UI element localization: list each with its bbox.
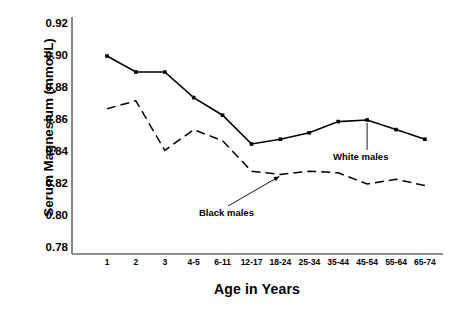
annotation-black-males: Black males bbox=[199, 208, 254, 218]
data-point-marker bbox=[221, 113, 225, 117]
x-tick-label: 12-17 bbox=[241, 258, 263, 267]
x-axis-title: Age in Years bbox=[72, 281, 442, 297]
x-tick-label: 25-34 bbox=[298, 258, 320, 267]
leader-black-males bbox=[228, 176, 279, 206]
x-tick-label: 6-11 bbox=[214, 258, 231, 267]
data-point-marker bbox=[423, 137, 427, 141]
data-point-marker bbox=[336, 120, 340, 124]
x-tick-label: 45-54 bbox=[356, 258, 378, 267]
data-point-marker bbox=[163, 70, 167, 74]
data-point-marker bbox=[134, 70, 138, 74]
data-point-marker bbox=[279, 137, 283, 141]
x-axis-tick-labels: 1234-56-1112-1718-2425-3435-4445-5455-64… bbox=[0, 258, 455, 274]
x-tick-label: 35-44 bbox=[327, 258, 349, 267]
annotation-white-males: White males bbox=[333, 152, 388, 162]
x-tick-label: 1 bbox=[105, 258, 110, 267]
data-point-marker bbox=[105, 54, 109, 58]
x-tick-label: 18-24 bbox=[270, 258, 292, 267]
data-point-marker bbox=[365, 118, 369, 122]
series-line-1 bbox=[107, 56, 425, 144]
series-line-2 bbox=[107, 101, 425, 186]
x-tick-label: 3 bbox=[162, 258, 167, 267]
x-tick-label: 55-64 bbox=[385, 258, 407, 267]
x-tick-label: 2 bbox=[134, 258, 139, 267]
series-layer bbox=[105, 54, 427, 185]
data-point-marker bbox=[308, 131, 312, 135]
x-tick-label: 4-5 bbox=[188, 258, 200, 267]
x-tick-label: 65-74 bbox=[414, 258, 436, 267]
data-point-marker bbox=[394, 128, 398, 132]
data-point-marker bbox=[250, 142, 254, 146]
data-point-marker bbox=[192, 96, 196, 100]
chart-figure: Serum Magnesium (mmol/L) 0.920.900.880.8… bbox=[0, 0, 455, 311]
